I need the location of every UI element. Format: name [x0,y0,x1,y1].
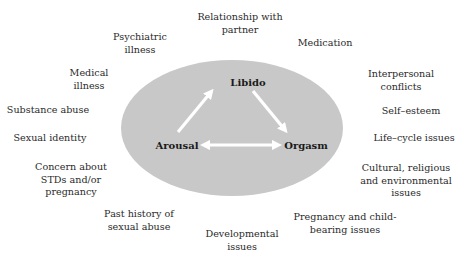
factor-relationship-with-partner: Relationship with partner [197,11,282,36]
factor-life-cycle-issues: Life–cycle issues [373,132,454,145]
node-orgasm: Orgasm [284,140,328,151]
factor-medical-illness: Medical illness [70,67,109,92]
factor-stds-pregnancy-concern: Concern about STDs and/or pregnancy [35,161,107,199]
factor-medication: Medication [298,37,353,50]
factor-past-sexual-abuse: Past history of sexual abuse [104,208,174,233]
diagram-canvas [0,0,469,255]
factor-cultural-religious-environmental: Cultural, religious and environmental is… [360,162,452,200]
factor-substance-abuse: Substance abuse [7,104,89,117]
node-libido: Libido [230,77,265,88]
factor-interpersonal-conflicts: Interpersonal conflicts [368,68,434,93]
factor-pregnancy-childbearing: Pregnancy and child- bearing issues [294,211,397,236]
factor-psychiatric-illness: Psychiatric illness [113,31,167,56]
node-arousal: Arousal [156,140,199,151]
factor-developmental-issues: Developmental issues [205,228,278,253]
factor-self-esteem: Self–esteem [382,105,441,118]
factor-sexual-identity: Sexual identity [14,132,87,145]
diagram-stage: Libido Arousal Orgasm Relationship with … [0,0,469,255]
